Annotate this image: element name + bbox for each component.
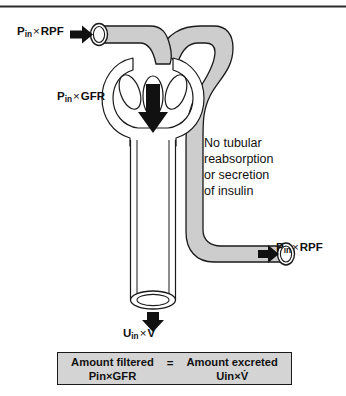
efferent-term: RPF <box>300 241 323 253</box>
filtered-term: GFR <box>113 370 137 382</box>
tubule-opening-inner <box>137 294 169 305</box>
amount-filtered-formula: Pin×GFR <box>71 369 154 383</box>
filtration-symbol-p: P <box>57 90 65 102</box>
label-excretion-rate: Uin×V̇ <box>123 327 155 342</box>
excreted-subscript: in <box>224 370 234 382</box>
label-efferent-plasma-flow: Pin×RPF <box>276 241 323 256</box>
annotation-line-2: reabsorption <box>204 151 274 167</box>
label-filtered-load: Pin×GFR <box>57 90 105 105</box>
annotation-line-4: of insulin <box>204 183 274 199</box>
excretion-subscript: in <box>131 332 138 341</box>
mass-balance-box: Amount filtered Pin×GFR = Amount excrete… <box>57 352 292 385</box>
annotation-no-tubular-transport: No tubular reabsorption or secretion of … <box>204 135 274 199</box>
afferent-symbol-p: P <box>17 25 25 37</box>
efferent-subscript: in <box>284 246 291 255</box>
filtered-subscript: in <box>96 370 106 382</box>
annotation-line-3: or secretion <box>204 167 274 183</box>
equals-sign: = <box>167 357 174 380</box>
afferent-flow-arrow-icon <box>70 26 93 44</box>
afferent-subscript: in <box>25 30 32 39</box>
efferent-symbol-p: P <box>276 241 284 253</box>
amount-excreted-label: Amount excreted <box>187 355 278 369</box>
excreted-term: V̇ <box>241 370 248 382</box>
filtered-symbol-p: P <box>89 370 96 382</box>
amount-filtered-column: Amount filtered Pin×GFR <box>71 355 154 383</box>
nephron-inulin-figure: Pin×RPF Pin×GFR Pin×RPF Uin×V̇ No tubula… <box>0 0 346 396</box>
amount-excreted-column: Amount excreted Uin×V̇ <box>187 355 278 383</box>
amount-filtered-label: Amount filtered <box>71 355 154 369</box>
annotation-line-1: No tubular <box>204 135 274 151</box>
afferent-vessel-opening-inner <box>93 27 104 43</box>
afferent-term: RPF <box>41 25 64 37</box>
efferent-times: × <box>291 241 300 253</box>
afferent-times: × <box>32 25 41 37</box>
afferent-arteriole <box>99 26 172 64</box>
filtration-subscript: in <box>65 95 72 104</box>
filtration-term: GFR <box>81 90 105 102</box>
nephron-diagram <box>0 0 346 396</box>
label-afferent-plasma-flow: Pin×RPF <box>17 25 64 40</box>
filtration-times: × <box>72 90 81 102</box>
amount-excreted-formula: Uin×V̇ <box>187 369 278 383</box>
excretion-term: V̇ <box>147 327 155 339</box>
filtration-arrow-icon <box>138 84 168 133</box>
